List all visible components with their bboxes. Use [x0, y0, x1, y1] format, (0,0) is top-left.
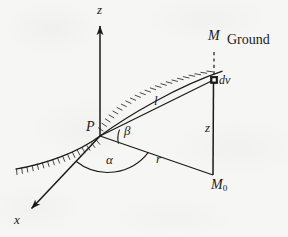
x-axis-line	[32, 136, 101, 209]
radius-label: r	[156, 152, 161, 165]
x-axis-label: x	[14, 213, 20, 226]
point-p-label: P	[86, 120, 95, 134]
point-m0-label: M0	[211, 178, 227, 194]
geometry-figure: z x P M Ground dv l r z M0 β α	[0, 0, 288, 237]
point-m0-subscript: 0	[223, 183, 228, 193]
depth-line-z	[213, 80, 214, 175]
angle-arc-beta	[118, 130, 120, 144]
depth-label: z	[205, 121, 210, 134]
angle-alpha-label: α	[106, 153, 113, 166]
z-axis-label: z	[97, 3, 102, 16]
slant-line-l	[100, 80, 214, 136]
ground-label: Ground	[227, 33, 270, 47]
slant-distance-label: l	[154, 94, 158, 107]
point-m0-base: M	[211, 177, 223, 192]
point-m-label: M	[208, 29, 220, 43]
dv-label: dv	[219, 74, 230, 86]
ground-surface	[16, 71, 223, 175]
angle-beta-label: β	[124, 124, 130, 137]
ground-curve	[16, 71, 223, 169]
dv-marker-inner	[212, 78, 215, 81]
